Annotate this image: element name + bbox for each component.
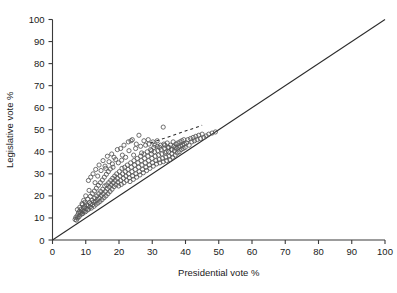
data-point	[126, 140, 130, 144]
dashed-trend-line	[151, 125, 203, 143]
x-tick-label: 70	[280, 246, 291, 257]
data-point	[94, 167, 98, 171]
data-point	[101, 159, 105, 163]
x-tick-label: 30	[147, 246, 158, 257]
x-tick-label: 60	[247, 246, 258, 257]
x-tick-label: 0	[50, 246, 55, 257]
y-tick-label: 0	[39, 235, 44, 246]
data-point	[86, 178, 90, 182]
y-tick-label: 60	[34, 102, 45, 113]
data-points-group	[73, 125, 218, 222]
y-tick-label: 70	[34, 80, 45, 91]
y-tick-label: 30	[34, 168, 45, 179]
data-point	[122, 143, 126, 147]
identity-line-segment	[53, 20, 386, 241]
data-point	[127, 149, 131, 153]
x-tick-label: 50	[213, 246, 224, 257]
x-tick-label: 80	[313, 246, 324, 257]
y-tick-label: 40	[34, 146, 45, 157]
data-point	[124, 155, 128, 159]
data-point	[146, 138, 150, 142]
x-tick-label: 20	[114, 246, 125, 257]
data-point	[134, 146, 138, 150]
data-point	[137, 133, 141, 137]
x-tick-label: 40	[180, 246, 191, 257]
data-point	[142, 139, 146, 143]
data-point	[87, 188, 91, 192]
data-point	[139, 144, 143, 148]
y-tick-label: 50	[34, 124, 45, 135]
identity-line	[53, 20, 386, 241]
data-point	[120, 158, 124, 162]
y-tick-label: 90	[34, 36, 45, 47]
x-tick-label: 10	[80, 246, 91, 257]
data-point	[161, 125, 165, 129]
y-axis-title: Legislative vote %	[4, 91, 15, 168]
y-tick-label: 80	[34, 58, 45, 69]
data-point	[134, 142, 138, 146]
y-tick-label: 20	[34, 190, 45, 201]
x-tick-label: 100	[377, 246, 393, 257]
y-tick-label: 100	[29, 14, 45, 25]
data-point	[99, 168, 103, 172]
dashed-trend-segment	[151, 125, 203, 143]
data-point	[132, 153, 136, 157]
data-point	[120, 166, 124, 170]
scatter-plot-figure: 0102030405060708090100010203040506070809…	[0, 0, 397, 293]
data-point	[97, 163, 101, 167]
x-tick-label: 90	[346, 246, 357, 257]
axis-labels-group: 0102030405060708090100010203040506070809…	[4, 14, 393, 278]
data-point	[96, 174, 100, 178]
data-point	[105, 154, 109, 158]
plot-canvas: 0102030405060708090100010203040506070809…	[0, 0, 397, 293]
y-tick-label: 10	[34, 212, 45, 223]
x-axis-title: Presidential vote %	[178, 267, 260, 278]
